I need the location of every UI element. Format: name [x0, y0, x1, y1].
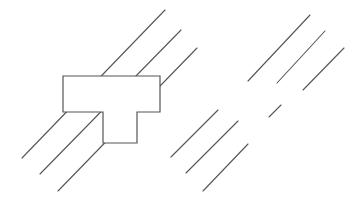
figure-canvas	[0, 0, 359, 207]
figure-root	[0, 0, 359, 207]
